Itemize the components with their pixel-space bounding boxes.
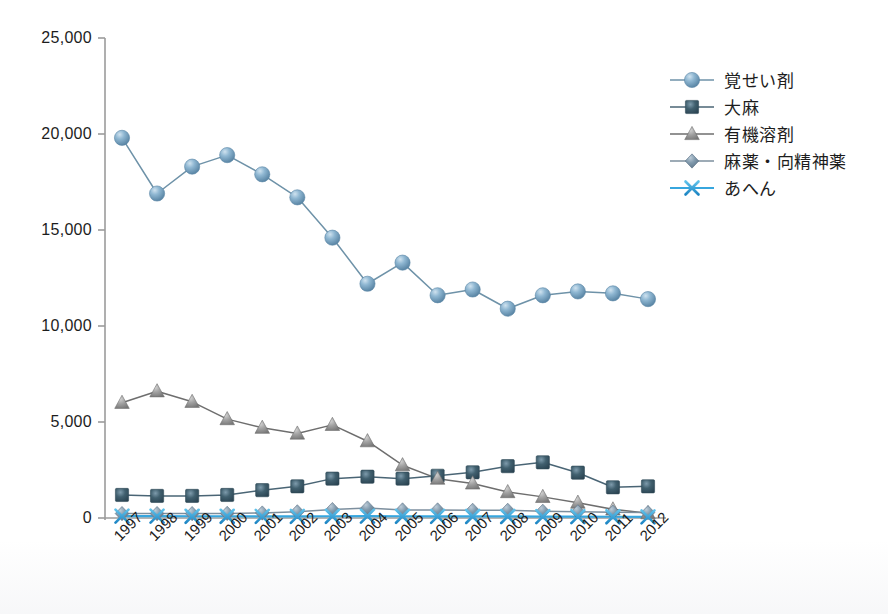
legend-marker-triangle-icon	[668, 122, 716, 146]
data-point-0-13	[570, 284, 585, 299]
y-tick-label-5000: 5,000	[0, 413, 92, 431]
legend-item-0[interactable]: 覚せい剤	[668, 66, 884, 93]
legend-item-3[interactable]: 麻薬・向精神薬	[668, 147, 884, 174]
data-point-0-8	[395, 255, 410, 270]
series-markers-0	[114, 130, 655, 316]
legend-label-2: 有機溶剤	[724, 121, 794, 146]
legend-marker-x-icon	[668, 176, 716, 200]
data-point-1-legend	[685, 100, 698, 113]
data-point-2-7	[360, 434, 375, 447]
data-point-2-1	[150, 384, 165, 397]
series-line-0	[122, 138, 648, 309]
series-layer	[114, 130, 655, 523]
data-point-1-14	[606, 481, 619, 494]
legend-marker-circle-icon	[668, 68, 716, 92]
data-point-0-4	[255, 167, 270, 182]
data-point-1-4	[256, 484, 269, 497]
data-point-1-5	[291, 480, 304, 493]
data-point-0-5	[290, 190, 305, 205]
data-point-1-11	[501, 460, 514, 473]
legend-item-4[interactable]: あへん	[668, 174, 884, 201]
data-point-0-11	[500, 301, 515, 316]
data-point-1-6	[326, 472, 339, 485]
y-tick-label-10000: 10,000	[0, 317, 92, 335]
data-point-1-2	[186, 489, 199, 502]
data-point-3-legend	[685, 153, 699, 167]
data-point-0-12	[535, 288, 550, 303]
axis-lines	[98, 38, 666, 520]
data-point-1-7	[361, 470, 374, 483]
data-point-2-8	[395, 458, 410, 471]
legend-label-4: あへん	[724, 175, 777, 200]
legend-marker-diamond-icon	[668, 149, 716, 173]
data-point-2-6	[325, 417, 340, 430]
data-point-0-0	[114, 130, 129, 145]
data-point-1-15	[641, 480, 654, 493]
data-point-0-7	[360, 276, 375, 291]
series-line-2	[122, 391, 648, 513]
data-point-0-14	[605, 286, 620, 301]
legend-label-3: 麻薬・向精神薬	[724, 148, 847, 173]
data-point-1-12	[536, 456, 549, 469]
data-point-2-legend	[685, 126, 700, 139]
series-0	[122, 138, 648, 309]
y-tick-label-0: 0	[0, 509, 92, 527]
data-point-2-3	[220, 412, 235, 425]
series-markers-1	[115, 456, 654, 503]
chart-legend: 覚せい剤大麻有機溶剤麻薬・向精神薬あへん	[668, 66, 884, 201]
chart-root: 05,00010,00015,00020,00025,000 199719981…	[0, 0, 888, 614]
legend-label-1: 大麻	[724, 94, 759, 119]
legend-marker-square-icon	[668, 95, 716, 119]
data-point-0-6	[325, 230, 340, 245]
data-point-0-10	[465, 282, 480, 297]
series-1	[122, 462, 648, 496]
data-point-1-13	[571, 466, 584, 479]
data-point-0-3	[220, 148, 235, 163]
data-point-1-0	[115, 488, 128, 501]
data-point-1-3	[221, 488, 234, 501]
data-point-1-1	[150, 489, 163, 502]
legend-item-2[interactable]: 有機溶剤	[668, 120, 884, 147]
data-point-1-8	[396, 472, 409, 485]
data-point-0-legend	[684, 72, 699, 87]
y-tick-label-20000: 20,000	[0, 125, 92, 143]
data-point-0-9	[430, 288, 445, 303]
data-point-0-1	[149, 186, 164, 201]
y-tick-label-15000: 15,000	[0, 221, 92, 239]
series-line-1	[122, 462, 648, 496]
legend-item-1[interactable]: 大麻	[668, 93, 884, 120]
series-2	[122, 391, 648, 513]
legend-label-0: 覚せい剤	[724, 67, 794, 92]
y-tick-label-25000: 25,000	[0, 29, 92, 47]
data-point-0-15	[640, 292, 655, 307]
data-point-0-2	[185, 159, 200, 174]
